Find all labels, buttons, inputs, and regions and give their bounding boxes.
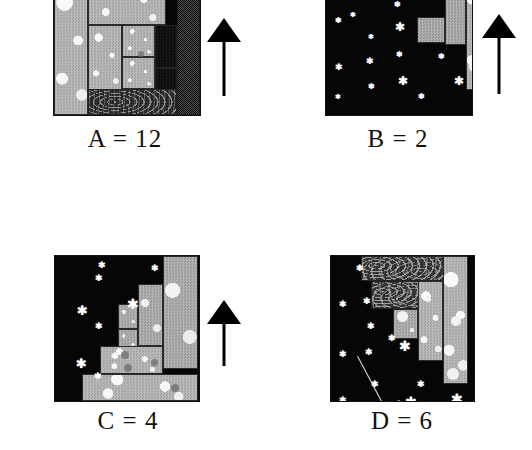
arrow-shaft-a [223, 38, 226, 96]
panel-a-caption: A = 12 [45, 126, 205, 151]
panel-b-caption: B = 2 [318, 126, 478, 151]
light-dot [425, 296, 431, 302]
pebble-dot [171, 384, 179, 392]
block-step3-light [138, 284, 163, 346]
up-arrow-icon [207, 18, 241, 96]
scene-a-content [54, 0, 200, 115]
scene-b [325, 0, 473, 116]
scene-b-content [326, 0, 472, 115]
block-step4-light [163, 256, 198, 369]
panel-c-caption: C = 4 [48, 408, 208, 433]
block-light-tall-right [466, 0, 472, 90]
block-streak-bottom [88, 89, 177, 115]
block-grey-tall-mid [445, 0, 466, 45]
figure-root: A = 12 B = 2 C = 4 D = 6 [0, 0, 532, 450]
pebble-dot [124, 364, 132, 372]
block-mid-lower-light [122, 57, 155, 89]
light-dot [397, 311, 408, 322]
block-dark-upper [155, 25, 177, 68]
block-left-tall-light [54, 0, 88, 115]
block-grey-small [417, 17, 445, 43]
pebble-dot [151, 359, 158, 366]
block-grey-tall-mid [418, 281, 443, 361]
panel-d-caption: D = 6 [322, 408, 482, 433]
block-mid-left-light [88, 25, 122, 91]
up-arrow-icon [207, 300, 241, 366]
scene-c [54, 255, 200, 402]
pebble-dot [121, 351, 129, 359]
block-noise-right-column [177, 0, 200, 115]
scene-d [330, 255, 475, 402]
pebble-dot [138, 51, 144, 57]
arrow-shaft-b [498, 34, 501, 94]
arrow-shaft-c [223, 320, 226, 366]
block-top-wide-light [88, 0, 166, 25]
block-marble-top [361, 256, 444, 281]
up-arrow-icon [482, 14, 516, 94]
scene-a [53, 0, 201, 116]
light-dot [451, 316, 461, 326]
light-dot [447, 368, 459, 380]
scene-c-content [55, 256, 199, 401]
scene-d-content [331, 256, 474, 401]
